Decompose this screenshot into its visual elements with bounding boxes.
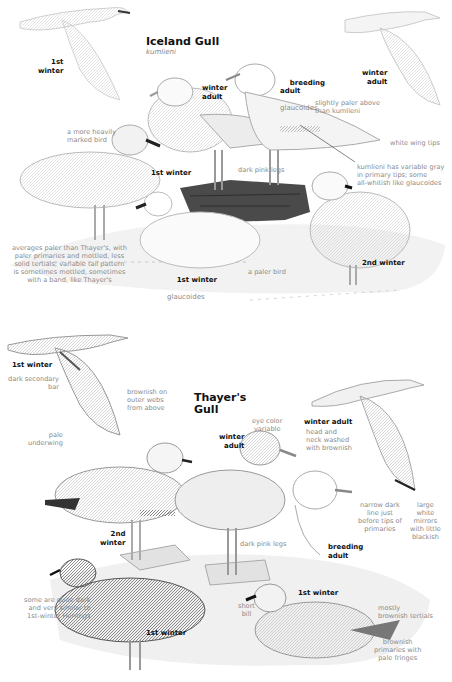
note-paler-bird: a paler bird xyxy=(248,268,286,276)
note-quite-dark: some are quite dark and very similar to … xyxy=(24,596,91,620)
label-winter-adult: winter adult xyxy=(219,433,244,450)
title-text: Iceland Gull xyxy=(146,35,219,48)
note-white-wing-tips: white wing tips xyxy=(390,139,440,147)
bird-flying-winter-adult xyxy=(345,12,440,105)
note-slightly-paler: slightly paler above than kumlieni xyxy=(315,99,380,115)
note-heavily-marked: a more heavily marked bird xyxy=(67,128,116,144)
species-title-iceland-gull: Iceland Gull kumlieni xyxy=(146,36,219,57)
label-flying-winter-adult: winter adult xyxy=(362,69,387,86)
label-standing-1st-winter: 1st winter xyxy=(151,169,191,178)
label-resting-1st-winter: 1st winter glaucoides xyxy=(167,267,217,318)
note-dark-pink-legs: dark pink legs xyxy=(240,540,286,548)
note-brownish-primaries: brownish primaries with pale fringes xyxy=(374,638,421,662)
label-flying-1st-winter: 1st winter xyxy=(12,361,52,370)
resting-1st-winter-text: 1st winter xyxy=(177,276,217,284)
bird-flying-1st-winter xyxy=(20,8,130,101)
note-short-bill: short bill xyxy=(238,602,255,618)
iceland-gull-plate: Iceland Gull kumlieni 1st winter winter … xyxy=(0,0,452,330)
note-kumlieni-variable: kumlieni has variable gray in primary ti… xyxy=(357,163,444,187)
note-brownish-tertials: mostly brownish tertials xyxy=(378,604,433,620)
note-pale-underwing: pale underwing xyxy=(28,431,63,447)
note-head-neck-washed: head and neck washed with brownish xyxy=(306,428,352,452)
note-large-white-mirrors: large white mirrors with little blackish xyxy=(410,501,441,541)
label-flying-1st-winter: 1st winter xyxy=(38,58,63,75)
breeding-adult-text: breeding adult xyxy=(280,79,325,96)
label-standing-1st-winter: 1st winter xyxy=(146,629,186,638)
species-title-thayers-gull: Thayer's Gull xyxy=(194,392,246,416)
note-averages-paler: averages paler than Thayer's, with paler… xyxy=(12,244,127,284)
label-flying-winter-adult: winter adult xyxy=(304,418,352,427)
label-2nd-winter: 2nd winter xyxy=(100,530,125,547)
label-standing-winter-adult: winter adult xyxy=(202,84,227,101)
note-dark-secondary-bar: dark secondary bar xyxy=(8,375,59,391)
note-narrow-dark-line: narrow dark line just before tips of pri… xyxy=(358,501,402,533)
thayers-gull-plate: Thayer's Gull 1st winter dark secondary … xyxy=(0,330,452,682)
label-resting-1st-winter: 1st winter xyxy=(298,589,338,598)
note-eye-color-variable: eye color variable xyxy=(252,417,282,433)
label-2nd-winter: 2nd winter xyxy=(362,259,405,268)
resting-1st-winter-subspecies: glaucoides xyxy=(167,293,217,302)
note-brownish-outer-webs: brownish on outer webs from above xyxy=(127,388,167,412)
label-breeding-adult: breeding adult xyxy=(328,543,363,560)
subspecies-label: kumlieni xyxy=(146,48,219,57)
note-dark-pink-legs: dark pink legs xyxy=(238,166,284,174)
